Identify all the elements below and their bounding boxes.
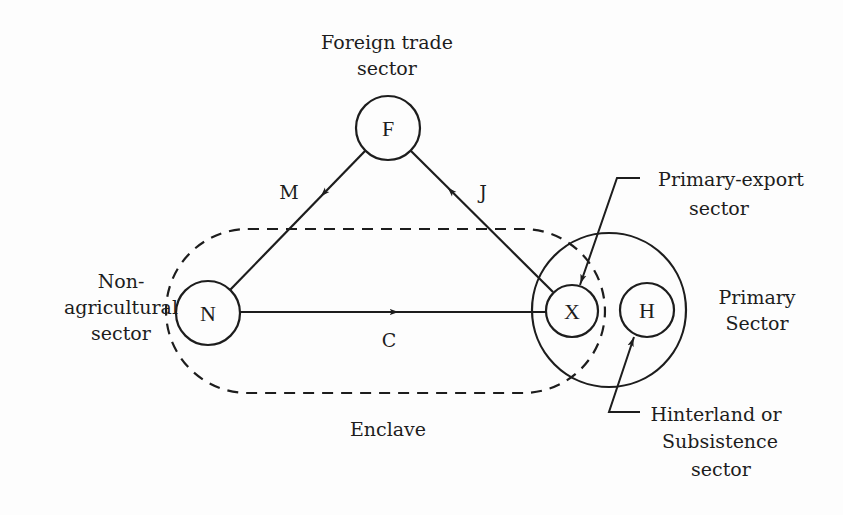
node-f-letter: F: [382, 116, 394, 141]
node-n-letter: N: [200, 301, 216, 326]
non-agricultural-label-line2: agricultural: [64, 296, 178, 318]
node-n: N: [176, 281, 240, 345]
hinterland-label-line1: Hinterland or: [650, 403, 782, 425]
primary-sector-label-line1: Primary: [718, 286, 795, 308]
edge-m-label: M: [279, 181, 298, 203]
node-h: H: [620, 283, 674, 337]
node-x: X: [546, 285, 598, 337]
primary-export-label-line1: Primary-export: [658, 168, 804, 190]
enclave-economy-diagram: F N X H M J C Foreign trade sector Non- …: [0, 0, 843, 515]
hinterland-label-line2: Subsistence: [662, 430, 778, 452]
edge-j: [411, 151, 553, 292]
edge-j-label: J: [477, 181, 487, 203]
enclave-label: Enclave: [350, 418, 426, 440]
edge-m: [230, 151, 365, 290]
leader-primary-export: [580, 178, 640, 285]
node-h-letter: H: [639, 298, 655, 323]
primary-export-label-line2: sector: [689, 197, 750, 219]
primary-sector-label-line2: Sector: [725, 312, 789, 334]
foreign-trade-label-line2: sector: [357, 57, 418, 79]
hinterland-label-line3: sector: [691, 458, 752, 480]
edge-c-label: C: [382, 329, 397, 351]
non-agricultural-label-line3: sector: [91, 322, 152, 344]
leader-hinterland: [609, 337, 640, 412]
foreign-trade-label-line1: Foreign trade: [321, 31, 453, 53]
node-x-letter: X: [564, 299, 580, 324]
node-f: F: [356, 96, 420, 160]
non-agricultural-label-line1: Non-: [98, 270, 145, 292]
